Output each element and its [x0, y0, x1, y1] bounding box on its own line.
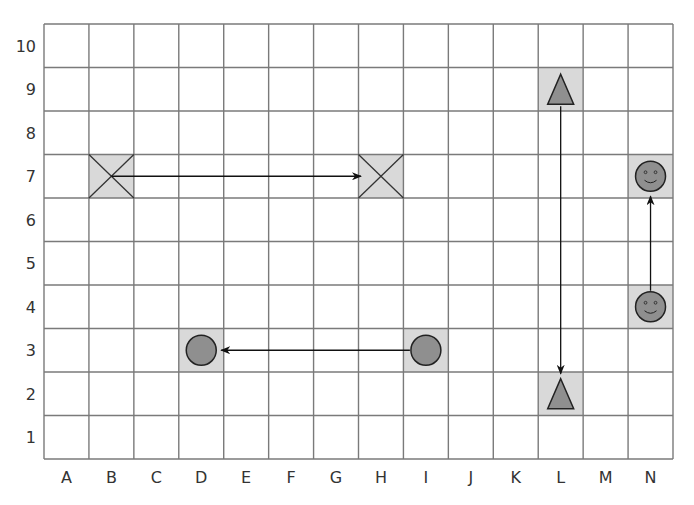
coordinate-grid-diagram: ABCDEFGHIJKLMN 12345678910 — [0, 0, 694, 505]
column-labels: ABCDEFGHIJKLMN — [61, 468, 657, 487]
row-label-10: 10 — [16, 37, 36, 56]
column-label-l: L — [556, 468, 565, 487]
row-labels: 12345678910 — [16, 37, 36, 448]
column-label-k: K — [511, 468, 522, 487]
row-label-8: 8 — [26, 124, 36, 143]
circle-icon — [411, 335, 441, 365]
column-label-e: E — [241, 468, 251, 487]
row-label-4: 4 — [26, 298, 36, 317]
row-label-9: 9 — [26, 80, 36, 99]
row-label-7: 7 — [26, 167, 36, 186]
column-label-d: D — [195, 468, 207, 487]
smiley-icon — [636, 292, 666, 322]
row-label-3: 3 — [26, 341, 36, 360]
row-label-6: 6 — [26, 211, 36, 230]
column-label-n: N — [645, 468, 657, 487]
column-label-f: F — [287, 468, 296, 487]
column-label-c: C — [151, 468, 162, 487]
row-label-2: 2 — [26, 385, 36, 404]
column-label-h: H — [375, 468, 387, 487]
row-label-1: 1 — [26, 428, 36, 447]
row-label-5: 5 — [26, 254, 36, 273]
column-label-m: M — [599, 468, 613, 487]
smiley-icon — [636, 161, 666, 191]
column-label-b: B — [106, 468, 117, 487]
circle-icon — [186, 335, 216, 365]
column-label-i: I — [424, 468, 429, 487]
column-label-a: A — [61, 468, 72, 487]
column-label-g: G — [330, 468, 342, 487]
column-label-j: J — [467, 468, 473, 487]
